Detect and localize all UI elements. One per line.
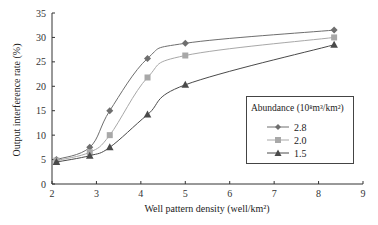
y-tick-label: 35 bbox=[36, 8, 46, 19]
square-marker-icon bbox=[267, 135, 289, 145]
triangle-marker-icon bbox=[267, 148, 289, 158]
data-point bbox=[145, 74, 151, 80]
diamond-marker-icon bbox=[267, 122, 289, 132]
y-tick-label: 25 bbox=[36, 56, 46, 67]
legend-title: Abundance (10⁸m³/km²) bbox=[251, 103, 344, 113]
data-point bbox=[330, 41, 338, 48]
x-tick-label: 3 bbox=[94, 188, 99, 199]
data-point bbox=[182, 53, 188, 59]
y-tick-label: 0 bbox=[41, 179, 46, 190]
y-tick-label: 5 bbox=[41, 154, 46, 165]
x-tick-label: 2 bbox=[50, 188, 55, 199]
x-tick-label: 5 bbox=[183, 188, 188, 199]
data-point bbox=[331, 34, 337, 40]
y-tick-label: 10 bbox=[36, 130, 46, 141]
x-axis-label: Well pattern density (well/km²) bbox=[144, 203, 269, 215]
data-point bbox=[106, 143, 114, 150]
x-tick-label: 6 bbox=[227, 188, 232, 199]
x-tick-label: 4 bbox=[138, 188, 143, 199]
y-axis-title: Output interference rate (%) bbox=[11, 44, 23, 157]
x-tick-label: 7 bbox=[272, 188, 277, 199]
legend-label: 2.8 bbox=[294, 122, 307, 133]
legend-item-2-8: 2.8 bbox=[267, 121, 307, 133]
legend-item-2-0: 2.0 bbox=[267, 134, 307, 146]
data-point bbox=[106, 107, 113, 114]
legend-label: 1.5 bbox=[294, 148, 307, 159]
legend-label: 2.0 bbox=[294, 135, 307, 146]
y-tick-label: 30 bbox=[36, 32, 46, 43]
legend-item-1-5: 1.5 bbox=[267, 147, 307, 159]
y-tick-label: 20 bbox=[36, 81, 46, 92]
x-tick-label: 9 bbox=[361, 188, 366, 199]
x-tick-label: 8 bbox=[316, 188, 321, 199]
y-tick-label: 15 bbox=[36, 105, 46, 116]
data-point bbox=[331, 27, 338, 34]
legend: Abundance (10⁸m³/km²) 2.8 2.0 1.5 bbox=[246, 96, 354, 164]
data-point bbox=[107, 132, 113, 138]
y-axis-label: Output interference rate (%) bbox=[11, 44, 23, 157]
data-point bbox=[182, 40, 189, 47]
